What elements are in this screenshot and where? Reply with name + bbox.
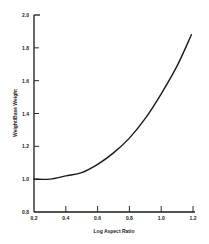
y-axis-title: Weight/Base Weight	[12, 89, 18, 137]
y-axis-ticks: 0.81.01.21.41.61.82.0	[22, 12, 39, 215]
line-chart: 0.81.01.21.41.61.82.0 0.20.40.60.81.01.2…	[0, 0, 209, 244]
y-tick-label: 2.0	[22, 12, 29, 18]
x-axis-ticks: 0.20.40.60.81.01.2	[31, 206, 197, 221]
y-tick-label: 1.2	[22, 143, 29, 149]
x-tick-label: 0.2	[31, 215, 38, 221]
y-tick-label: 1.4	[22, 111, 29, 117]
x-tick-label: 1.2	[190, 215, 197, 221]
y-tick-label: 1.6	[22, 78, 29, 84]
x-tick-label: 0.6	[94, 215, 101, 221]
x-tick-label: 0.8	[126, 215, 133, 221]
y-tick-label: 1.8	[22, 45, 29, 51]
y-tick-label: 0.8	[22, 209, 29, 215]
x-axis-title: Log Aspect Ratio	[94, 228, 135, 234]
x-tick-label: 0.4	[62, 215, 69, 221]
y-tick-label: 1.0	[22, 176, 29, 182]
data-series-line	[34, 35, 191, 180]
x-tick-label: 1.0	[158, 215, 165, 221]
